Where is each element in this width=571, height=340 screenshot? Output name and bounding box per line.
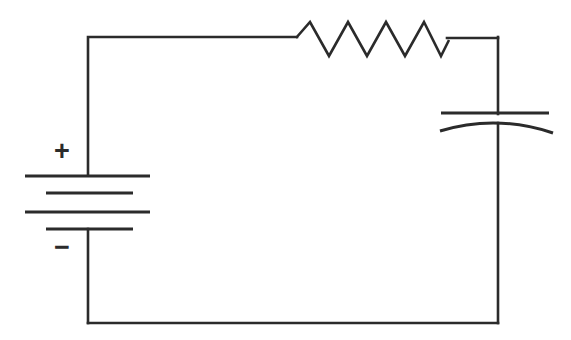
wire-battery-top-to-resistor [88, 37, 297, 175]
capacitor-plate-curved [440, 123, 553, 133]
wire-group [88, 37, 498, 323]
battery-negative-label: − [54, 232, 70, 262]
circuit-schematic-svg: + − [0, 0, 571, 340]
circuit-diagram: + − [0, 0, 571, 340]
resistor-zigzag-path [296, 22, 449, 56]
capacitor-symbol [440, 113, 553, 133]
resistor-symbol [296, 22, 449, 56]
battery-positive-label: + [54, 136, 70, 166]
